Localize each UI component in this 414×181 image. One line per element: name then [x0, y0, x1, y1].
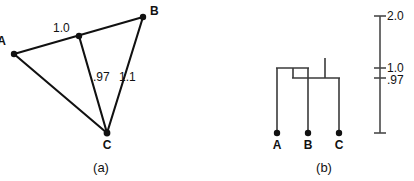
leaf-label-a: A [273, 138, 282, 152]
scale-label-2-0: 2.0 [387, 9, 404, 23]
node-dot-midpoint-ab [76, 33, 82, 39]
node-label-b: B [150, 4, 159, 18]
panel-caption-b: (b) [316, 160, 332, 175]
panel-b-group: A B C (b) [273, 58, 344, 175]
dendrogram-leaf-dots [274, 130, 342, 136]
distance-label-mc: .97 [93, 70, 110, 84]
node-dot-c [104, 130, 111, 137]
edge-a-c [14, 54, 107, 133]
figure-canvas: A B C 1.0 .97 1.1 (a) [0, 0, 414, 181]
leaf-label-b: B [304, 138, 313, 152]
leaf-dot-c [336, 130, 342, 136]
panel-caption-a: (a) [93, 160, 109, 175]
node-dot-b [140, 14, 146, 20]
node-label-c: C [103, 138, 112, 152]
scale-bar-group: 2.0 1.0 .97 [374, 9, 404, 133]
leaf-label-c: C [335, 138, 344, 152]
panel-a-group: A B C 1.0 .97 1.1 (a) [0, 4, 159, 175]
leaf-dot-b [305, 130, 311, 136]
node-label-a: A [0, 34, 6, 48]
edge-m-c [79, 36, 107, 133]
figure-container: A B C 1.0 .97 1.1 (a) [0, 0, 414, 181]
scale-label-0-97: .97 [387, 73, 404, 87]
distance-label-ab: 1.0 [53, 21, 70, 35]
node-dot-a [11, 51, 17, 57]
distance-label-bc: 1.1 [119, 70, 136, 84]
leaf-dot-a [274, 130, 280, 136]
dendrogram-leaf-labels: A B C [273, 138, 344, 152]
